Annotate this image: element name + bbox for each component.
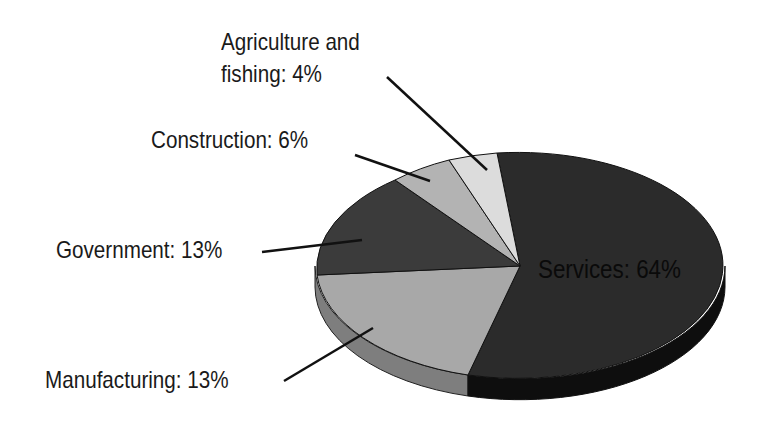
leader-construction bbox=[355, 155, 430, 181]
label-services: Services: 64% bbox=[538, 255, 681, 283]
leader-agriculture bbox=[387, 77, 487, 170]
label-construction: Construction: 6% bbox=[151, 126, 308, 154]
pie-chart bbox=[0, 0, 768, 424]
label-agriculture-line2: fishing: 4% bbox=[221, 60, 322, 88]
label-government: Government: 13% bbox=[56, 236, 222, 264]
label-manufacturing: Manufacturing: 13% bbox=[45, 366, 229, 394]
label-agriculture-line1: Agriculture and bbox=[221, 28, 360, 56]
